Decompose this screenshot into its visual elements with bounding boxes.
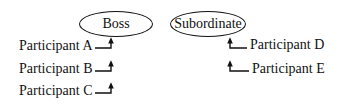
- arrow-c-icon: [95, 85, 111, 93]
- arrow-d-icon: [230, 40, 247, 48]
- arrow-a-icon: [95, 40, 111, 48]
- arrow-e-icon: [230, 63, 249, 71]
- arrows-layer: [0, 0, 338, 105]
- arrow-b-icon: [95, 63, 111, 71]
